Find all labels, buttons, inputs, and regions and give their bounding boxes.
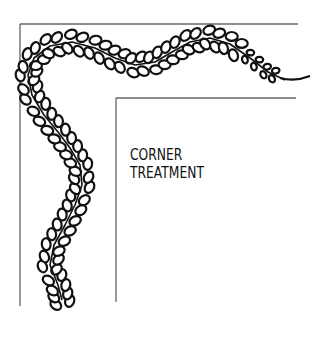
label-line-2: TREATMENT [130, 164, 204, 182]
label-line-1: CORNER [130, 146, 204, 164]
corner-treatment-label: CORNER TREATMENT [130, 146, 204, 182]
inner-frame [116, 98, 296, 302]
